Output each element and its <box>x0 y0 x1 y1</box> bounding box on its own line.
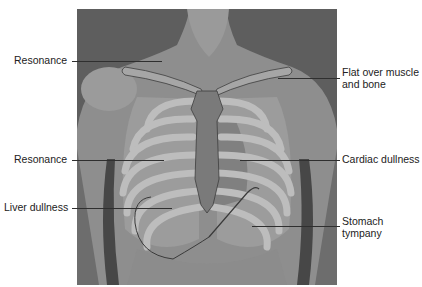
label-stomach-line1: Stomach <box>342 215 383 227</box>
label-liver-dullness: Liver dullness <box>4 201 68 213</box>
label-flat-muscle-bone: Flat over muscle and bone <box>342 66 419 90</box>
chest-photo <box>77 9 337 285</box>
leader-resonance-upper <box>72 61 162 62</box>
label-stomach-tympany: Stomach tympany <box>342 215 383 239</box>
leader-flat <box>278 78 340 79</box>
label-flat-line1: Flat over muscle <box>342 66 419 78</box>
chest-illustration <box>77 9 337 285</box>
leader-liver <box>72 208 172 209</box>
leader-stomach <box>252 226 340 227</box>
label-flat-line2: and bone <box>342 78 419 90</box>
label-stomach-line2: tympany <box>342 227 383 239</box>
label-cardiac-dullness: Cardiac dullness <box>342 153 420 165</box>
leader-resonance-mid <box>72 160 164 161</box>
leader-cardiac <box>240 160 340 161</box>
label-resonance-upper: Resonance <box>14 54 67 66</box>
label-resonance-mid: Resonance <box>14 153 67 165</box>
